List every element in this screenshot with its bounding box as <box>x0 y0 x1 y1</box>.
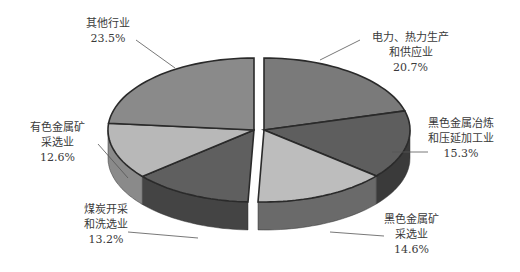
label-value: 13.2% <box>84 232 128 247</box>
leader-line <box>136 40 175 68</box>
label-text: 煤炭开采 <box>84 202 128 217</box>
label-text: 采选业 <box>30 135 85 150</box>
label-text: 黑色金属冶炼 <box>428 116 494 131</box>
label-value: 20.7% <box>372 60 449 75</box>
label-nonferrous: 有色金属矿 采选业 12.6% <box>30 120 85 165</box>
label-value: 14.6% <box>384 242 439 257</box>
label-text: 有色金属矿 <box>30 120 85 135</box>
label-coal: 煤炭开采 和洗选业 13.2% <box>84 202 128 247</box>
label-power: 电力、热力生产 和供应业 20.7% <box>372 30 449 75</box>
label-text: 其他行业 <box>86 16 130 31</box>
label-value: 12.6% <box>30 150 85 165</box>
leader-line <box>320 40 360 60</box>
pie-slice-top <box>109 58 254 130</box>
label-text: 和压延加工业 <box>428 131 494 146</box>
label-value: 15.3% <box>428 146 494 161</box>
label-other: 其他行业 23.5% <box>86 16 130 46</box>
leader-line <box>128 232 198 238</box>
label-text: 和洗选业 <box>84 217 128 232</box>
label-value: 23.5% <box>86 31 130 46</box>
label-ferrous-smelting: 黑色金属冶炼 和压延加工业 15.3% <box>428 116 494 161</box>
label-ferrous-mining: 黑色金属矿 采选业 14.6% <box>384 212 439 257</box>
label-text: 采选业 <box>384 227 439 242</box>
leader-line <box>330 232 384 236</box>
label-text: 电力、热力生产 <box>372 30 449 45</box>
label-text: 黑色金属矿 <box>384 212 439 227</box>
label-text: 和供应业 <box>372 45 449 60</box>
